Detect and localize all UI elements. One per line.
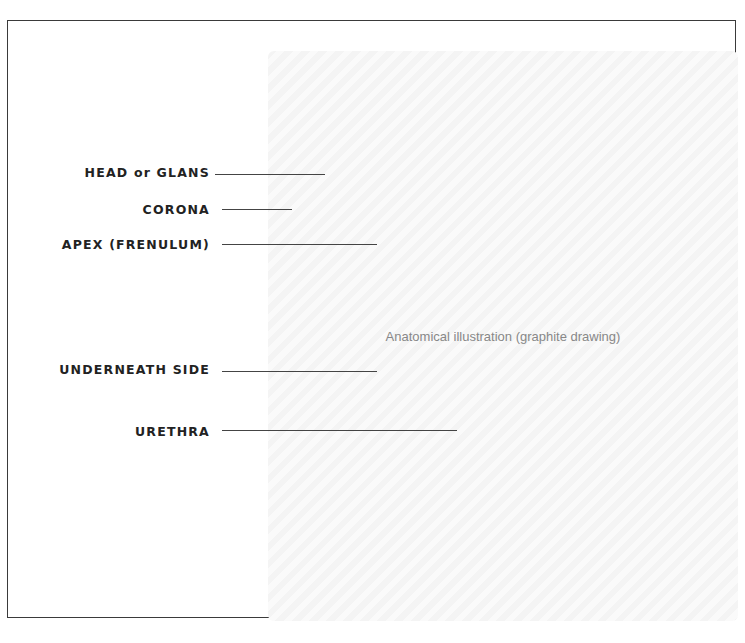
leader-line-underneath-side xyxy=(222,371,377,372)
leader-line-corona xyxy=(222,209,292,210)
label-urethra: URETHRA xyxy=(135,424,210,439)
diagram-frame: Anatomical illustration (graphite drawin… xyxy=(7,20,736,618)
leader-line-head-glans xyxy=(215,174,325,175)
label-underneath-side: UNDERNEATH SIDE xyxy=(59,362,210,377)
label-head-glans: HEAD or GLANS xyxy=(85,165,210,180)
illustration-placeholder: Anatomical illustration (graphite drawin… xyxy=(366,309,641,364)
label-apex-frenulum: APEX (FRENULUM) xyxy=(62,237,210,252)
anatomy-illustration: Anatomical illustration (graphite drawin… xyxy=(268,51,738,621)
label-corona: CORONA xyxy=(143,202,210,217)
leader-line-urethra xyxy=(222,430,457,431)
leader-line-apex-frenulum xyxy=(222,244,377,245)
